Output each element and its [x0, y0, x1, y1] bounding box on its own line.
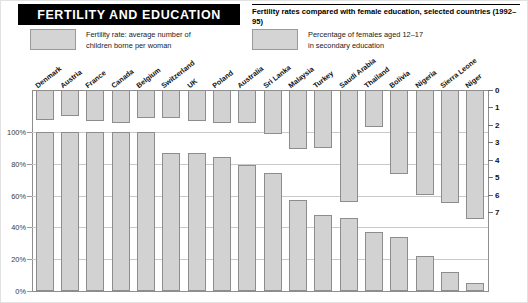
- x-axis: [32, 291, 489, 292]
- tick-left-80: [27, 164, 32, 165]
- y-axis-right-label-3: 3: [495, 138, 499, 147]
- tick-left-100: [27, 132, 32, 133]
- bar-education-bolivia: [390, 237, 408, 291]
- bar-education-denmark: [36, 132, 54, 291]
- subtitle-rule: [252, 4, 520, 5]
- category-labels: DenmarkAustriaFranceCanadaBelgiumSwitzer…: [0, 46, 528, 90]
- category-label-uk: UK: [185, 77, 199, 90]
- y-axis-right: [488, 90, 489, 292]
- tick-right-3: [488, 142, 493, 143]
- y-axis-right-label-6: 6: [495, 190, 499, 199]
- y-axis-right-label-2: 2: [495, 120, 499, 129]
- chart-subtitle: Fertility rates compared with female edu…: [252, 4, 520, 28]
- tick-right-5: [488, 177, 493, 178]
- bar-fertility-switzerland: [162, 90, 180, 118]
- bar-education-belgium: [137, 132, 155, 291]
- bar-education-thailand: [365, 232, 383, 291]
- bar-education-nigeria: [416, 256, 434, 291]
- bar-fertility-bolivia: [390, 90, 408, 174]
- bar-education-malaysia: [289, 200, 307, 291]
- tick-left-60: [27, 196, 32, 197]
- y-axis-right-label-5: 5: [495, 173, 499, 182]
- bar-education-canada: [112, 132, 130, 291]
- bar-education-saudi-arabia: [340, 218, 358, 291]
- y-axis-right-label-1: 1: [495, 103, 499, 112]
- bar-fertility-austria: [61, 90, 79, 116]
- y-axis-left-label-80: 80%: [0, 159, 26, 168]
- zero-line: [32, 90, 488, 91]
- bar-education-poland: [213, 157, 231, 291]
- category-label-belgium: Belgium: [134, 65, 162, 90]
- bar-fertility-france: [86, 90, 104, 121]
- tick-left-20: [27, 259, 32, 260]
- chart-root: FERTILITY AND EDUCATION Fertility rates …: [0, 0, 528, 303]
- bar-education-sierra-leone: [441, 272, 459, 291]
- bar-education-niger: [466, 283, 484, 291]
- y-axis-left-label-20: 20%: [0, 255, 26, 264]
- bar-education-switzerland: [162, 153, 180, 291]
- bar-fertility-canada: [112, 90, 130, 123]
- y-axis-left-label-40: 40%: [0, 223, 26, 232]
- y-axis-left-label-0: 0%: [0, 287, 26, 296]
- bar-education-austria: [61, 132, 79, 291]
- tick-right-2: [488, 125, 493, 126]
- category-label-niger: Niger: [464, 72, 484, 90]
- bar-fertility-poland: [213, 90, 231, 123]
- bar-fertility-saudi-arabia: [340, 90, 358, 202]
- bar-fertility-thailand: [365, 90, 383, 127]
- plot-area: 100%80%60%40%20%0%01234567: [32, 90, 488, 292]
- y-axis-left: [32, 90, 33, 292]
- category-label-canada: Canada: [109, 67, 135, 90]
- subtitle-text: Fertility rates compared with female edu…: [252, 7, 516, 26]
- tick-left-40: [27, 227, 32, 228]
- tick-right-6: [488, 195, 493, 196]
- bar-education-uk: [188, 153, 206, 291]
- y-axis-left-label-60: 60%: [0, 191, 26, 200]
- bar-education-turkey: [314, 215, 332, 291]
- bar-fertility-uk: [188, 90, 206, 121]
- bar-fertility-niger: [466, 90, 484, 219]
- y-axis-right-label-0: 0: [495, 86, 499, 95]
- category-label-nigeria: Nigeria: [413, 68, 438, 90]
- page-title: FERTILITY AND EDUCATION: [37, 8, 221, 22]
- bar-fertility-nigeria: [416, 90, 434, 195]
- y-axis-right-label-4: 4: [495, 155, 499, 164]
- category-label-poland: Poland: [210, 68, 234, 90]
- y-axis-left-label-100: 100%: [0, 128, 26, 137]
- bar-fertility-australia: [238, 90, 256, 123]
- tick-right-4: [488, 160, 493, 161]
- tick-right-7: [488, 212, 493, 213]
- tick-right-1: [488, 107, 493, 108]
- bar-education-france: [86, 132, 104, 291]
- bar-fertility-turkey: [314, 90, 332, 148]
- bar-education-australia: [238, 165, 256, 291]
- bar-fertility-belgium: [137, 90, 155, 118]
- category-label-sri-lanka: Sri Lanka: [261, 63, 292, 90]
- bar-fertility-denmark: [36, 90, 54, 120]
- bar-fertility-malaysia: [289, 90, 307, 149]
- bar-education-sri-lanka: [264, 173, 282, 291]
- tick-left-0: [27, 291, 32, 292]
- y-axis-right-label-7: 7: [495, 208, 499, 217]
- bar-fertility-sri-lanka: [264, 90, 282, 134]
- chart-title-banner: FERTILITY AND EDUCATION: [18, 4, 240, 25]
- bar-fertility-sierra-leone: [441, 90, 459, 203]
- category-label-denmark: Denmark: [33, 64, 63, 90]
- category-label-turkey: Turkey: [312, 69, 336, 90]
- tick-right-0: [488, 90, 493, 91]
- category-label-france: France: [84, 68, 108, 90]
- category-label-australia: Australia: [236, 64, 266, 90]
